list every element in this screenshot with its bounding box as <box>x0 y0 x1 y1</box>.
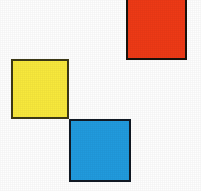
yellow-square <box>11 59 69 119</box>
blue-square <box>69 119 131 182</box>
figure-canvas: Three colored squares arranged diagonall… <box>0 0 201 191</box>
red-square <box>126 0 187 60</box>
